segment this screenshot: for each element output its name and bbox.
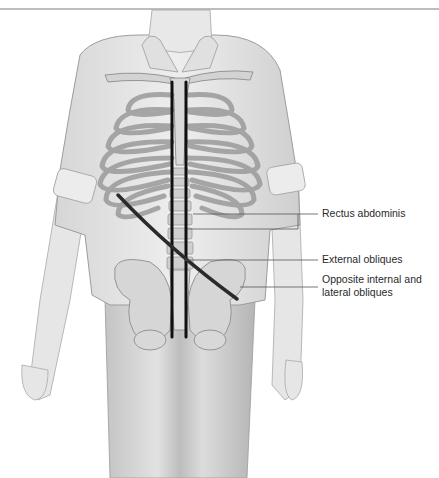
label-external-obliques: External obliques xyxy=(322,253,403,266)
label-rectus-abdominis: Rectus abdominis xyxy=(322,207,405,220)
anatomy-illustration xyxy=(0,0,439,478)
label-opposite-internal-lateral-obliques: Opposite internal and lateral obliques xyxy=(322,273,432,299)
